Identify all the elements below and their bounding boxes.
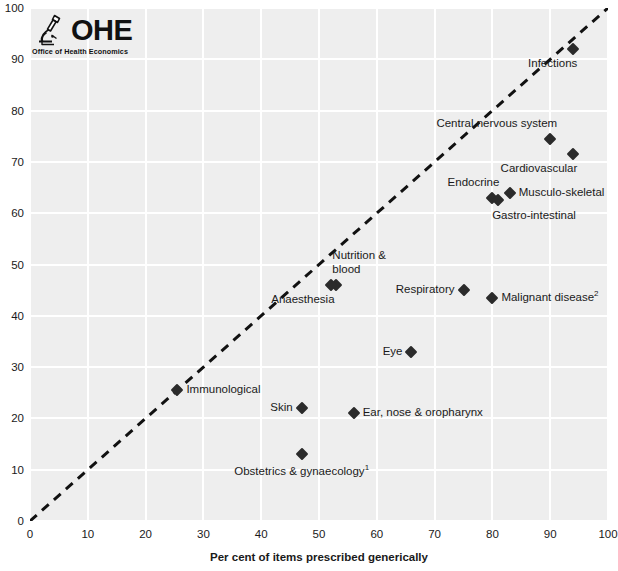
data-point-label: Cardiovascular xyxy=(501,162,578,176)
y-tick-label: 30 xyxy=(0,361,24,373)
y-tick-label: 10 xyxy=(0,464,24,476)
microscope-icon xyxy=(33,12,73,48)
y-tick-label: 0 xyxy=(0,515,24,527)
x-axis-title: Per cent of items prescribed generically xyxy=(30,551,608,563)
data-point-label: Malignant disease2 xyxy=(501,291,598,305)
gridline-horizontal xyxy=(30,315,608,317)
x-tick-label: 60 xyxy=(370,528,383,540)
data-point-label: Nutrition & blood xyxy=(332,249,394,276)
data-point-marker[interactable] xyxy=(295,448,308,461)
ohe-wordmark: OHE xyxy=(71,14,132,47)
y-tick-label: 90 xyxy=(0,53,24,65)
data-point-label: Endocrine xyxy=(448,176,500,190)
plot-area: InfectionsCentral nervous systemCardiova… xyxy=(30,8,608,521)
x-tick-label: 90 xyxy=(544,528,557,540)
y-tick-label: 60 xyxy=(0,207,24,219)
x-tick-label: 70 xyxy=(428,528,441,540)
data-point-label: Eye xyxy=(383,345,403,359)
data-point-marker[interactable] xyxy=(544,132,557,145)
data-point-label: Infections xyxy=(528,57,577,71)
data-point-marker[interactable] xyxy=(503,186,516,199)
data-point-label: Anaesthesia xyxy=(271,293,334,307)
data-point-label: Obstetrics & gynaecology1 xyxy=(234,466,369,480)
gridline-horizontal xyxy=(30,110,608,112)
data-point-marker[interactable] xyxy=(457,284,470,297)
data-point-marker[interactable] xyxy=(405,345,418,358)
x-tick-label: 0 xyxy=(27,528,33,540)
data-point-label: Ear, nose & oropharynx xyxy=(363,406,483,420)
x-tick-label: 20 xyxy=(139,528,152,540)
x-tick-label: 50 xyxy=(313,528,326,540)
y-tick-label: 100 xyxy=(0,2,24,14)
data-point-marker[interactable] xyxy=(567,148,580,161)
data-point-label: Immunological xyxy=(186,383,260,397)
x-tick-label: 30 xyxy=(197,528,210,540)
gridline-horizontal xyxy=(30,366,608,368)
ohe-logo: OHE Office of Health Economics xyxy=(31,12,143,58)
ohe-tagline: Office of Health Economics xyxy=(32,47,128,56)
y-tick-label: 80 xyxy=(0,105,24,117)
data-point-label: Central nervous system xyxy=(436,117,557,131)
x-tick-label: 40 xyxy=(255,528,268,540)
data-point-label: Musculo-skeletal xyxy=(519,186,605,200)
y-tick-label: 20 xyxy=(0,412,24,424)
gridline-horizontal xyxy=(30,58,608,60)
x-tick-label: 80 xyxy=(486,528,499,540)
gridline-horizontal xyxy=(30,264,608,266)
gridline-horizontal xyxy=(30,520,608,522)
y-tick-label: 40 xyxy=(0,310,24,322)
data-point-marker[interactable] xyxy=(567,43,580,56)
y-tick-label: 70 xyxy=(0,156,24,168)
x-tick-label: 10 xyxy=(81,528,94,540)
data-point-label: Gastro-intestinal xyxy=(492,210,576,224)
data-point-marker[interactable] xyxy=(171,384,184,397)
data-point-marker[interactable] xyxy=(295,402,308,415)
x-tick-label: 100 xyxy=(598,528,617,540)
data-point-marker[interactable] xyxy=(486,291,499,304)
data-point-label: Respiratory xyxy=(396,283,455,297)
gridline-horizontal xyxy=(30,7,608,9)
gridline-horizontal xyxy=(30,417,608,419)
y-tick-label: 50 xyxy=(0,259,24,271)
data-point-label: Skin xyxy=(270,401,292,415)
